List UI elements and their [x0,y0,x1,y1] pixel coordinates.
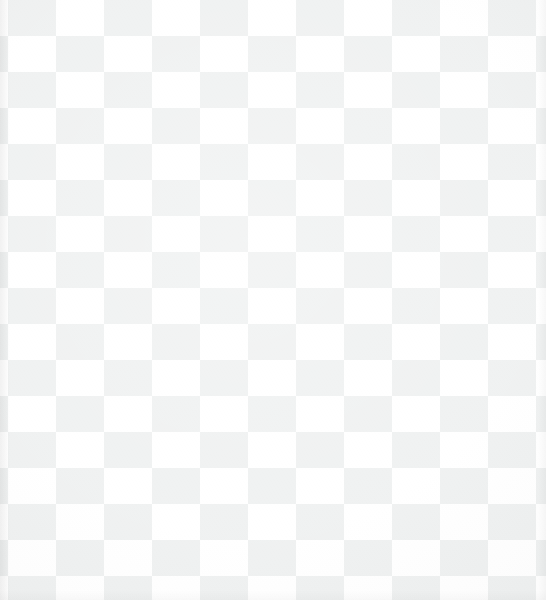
checkerboard-pattern-canvas: Photograph of a white and light-grey che… [0,0,546,600]
checkerboard-base-layer [0,0,546,600]
